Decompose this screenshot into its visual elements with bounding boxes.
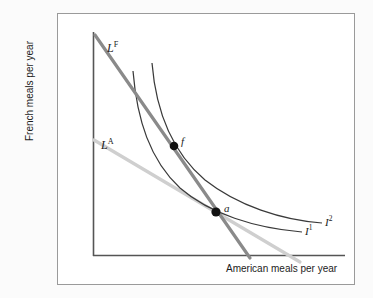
y-axis-title: French meals per year	[25, 25, 35, 157]
chart-plot-area	[0, 0, 373, 298]
curve-label-LF-sup: F	[114, 40, 119, 49]
data-point-a	[211, 207, 220, 216]
indifference-curve-I2	[152, 63, 322, 223]
curve-label-I1: I1	[305, 226, 312, 237]
point-label-f: f	[181, 136, 184, 147]
point-label-a: a	[224, 203, 230, 214]
curve-label-I1-sup: 1	[309, 223, 313, 232]
x-axis-title: American meals per year	[226, 264, 337, 274]
curve-label-LF: LF	[107, 42, 118, 54]
curve-label-I2-sup: 2	[329, 214, 333, 223]
data-point-f	[170, 142, 179, 151]
curve-label-LA-sup: A	[108, 137, 114, 146]
curve-label-LF-base: L	[107, 41, 114, 55]
curve-label-LA-base: L	[101, 138, 108, 152]
figure-root: LF LA I1 I2 f a French meals per year Am…	[0, 0, 373, 298]
curve-label-LA: LA	[101, 139, 114, 151]
curve-label-I2: I2	[325, 217, 332, 228]
